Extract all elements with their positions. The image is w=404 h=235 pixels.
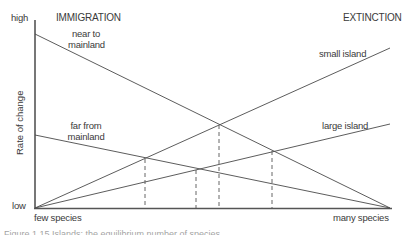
immigration-far-line — [35, 135, 390, 208]
y-axis-high-label: high — [11, 12, 28, 23]
immigration-heading: IMMIGRATION — [56, 12, 121, 23]
small-island-label: small island — [319, 48, 366, 59]
large-island-label: large island — [322, 120, 368, 131]
extinction-heading: EXTINCTION — [343, 12, 402, 23]
species-equilibrium-diagram — [0, 0, 404, 235]
y-axis-title: Rate of change — [14, 91, 25, 155]
near-mainland-label: near to mainland — [68, 28, 104, 50]
far-mainland-label: far from mainland — [66, 120, 106, 142]
y-axis-low-label: low — [12, 200, 26, 211]
x-axis-left-label: few species — [34, 212, 81, 223]
x-axis-right-label: many species — [333, 212, 389, 223]
figure-caption: Figure 1.15 Islands: the equilibrium num… — [4, 229, 220, 235]
